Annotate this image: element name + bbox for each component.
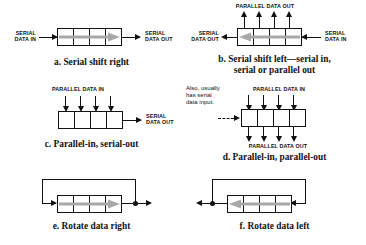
register-cell [58, 29, 74, 45]
register-cell [228, 196, 244, 212]
panel-c-output-arrowhead [136, 117, 142, 123]
panel-c-parallel-in-serial-out: PARALLEL DATA IN SERIAL DATA OUT c. Para… [0, 82, 183, 165]
panel-f-output-arrowhead [196, 200, 202, 206]
register-cell [254, 29, 270, 45]
panel-f-junction-dot [210, 201, 215, 206]
panel-f-feedback-top-horizontal [212, 179, 306, 180]
register-cell [59, 112, 75, 128]
panel-e-output-arrowhead [146, 200, 152, 206]
panel-d-caption: d. Parallel-in, parallel-out [183, 152, 366, 163]
panel-f-register [227, 195, 292, 213]
panel-c-top-label: PARALLEL DATA IN [28, 86, 128, 92]
panel-b-caption: b. Serial shift left—serial in, serial o… [183, 54, 366, 75]
panel-f-rotate-data-left: f. Rotate data left [183, 165, 366, 245]
register-cell [238, 29, 254, 45]
panel-f-feedback-right-vertical [305, 179, 306, 203]
panel-b-parallel-out-arrowhead [271, 11, 277, 17]
panel-b-output-arrowhead [221, 34, 227, 40]
register-cell [258, 110, 274, 126]
panel-e-feedback-left-vertical [42, 179, 43, 203]
panel-b-top-label: PARALLEL DATA OUT [215, 3, 315, 9]
register-cell [276, 196, 291, 212]
panel-d-parallel-in-parallel-out: Also, usually has serial data input. PAR… [183, 82, 366, 165]
panel-b-input-arrowhead [301, 34, 307, 40]
panel-c-caption: c. Parallel-in, serial-out [0, 139, 183, 150]
panel-c-output-label: SERIAL DATA OUT [146, 113, 184, 126]
panel-d-note-line3: data input. [186, 99, 246, 106]
panel-d-bottom-label: PARALLEL DATA OUT [226, 143, 330, 149]
register-cell [107, 112, 122, 128]
panel-b-output-label: SERIAL DATA OUT [183, 30, 219, 43]
register-cell [90, 29, 106, 45]
register-cell [260, 196, 276, 212]
panel-c-output-label-line2: DATA OUT [146, 119, 184, 125]
register-cell [74, 29, 90, 45]
panel-d-parallel-out-arrowhead [246, 136, 252, 142]
panel-a-output-label-line2: DATA OUT [145, 36, 183, 42]
panel-e-register [57, 195, 122, 213]
register-cell [274, 110, 290, 126]
panel-d-parallel-out-arrowhead [276, 136, 282, 142]
register-cell [290, 110, 305, 126]
panel-d-note-line2: has serial [186, 92, 246, 99]
register-cell [90, 196, 106, 212]
panel-b-caption-line2: serial or parallel out [183, 65, 366, 76]
panel-d-top-label: PARALLEL DATA IN [229, 86, 329, 92]
panel-b-parallel-out-arrowhead [241, 11, 247, 17]
panel-d-parallel-out-arrowhead [291, 136, 297, 142]
panel-d-serial-input-arrowhead [234, 115, 240, 121]
register-cell [270, 29, 286, 45]
panel-a-caption: a. Serial shift right [0, 57, 183, 68]
panel-a-input-label-line2: DATA IN [2, 36, 36, 42]
register-cell [106, 29, 121, 45]
panel-a-register [57, 28, 122, 46]
panel-b-serial-shift-left: PARALLEL DATA OUT SERIAL DATA OUT SERIAL [183, 0, 366, 82]
panel-b-parallel-out-arrowhead [256, 11, 262, 17]
panel-e-rotate-data-right: e. Rotate data right [0, 165, 183, 245]
register-cell [242, 110, 258, 126]
register-cell [75, 112, 91, 128]
panel-b-output-label-line2: DATA OUT [183, 36, 219, 42]
panel-a-output-arrowhead [135, 34, 141, 40]
register-cell [91, 112, 107, 128]
register-cell [244, 196, 260, 212]
panel-a-output-label: SERIAL DATA OUT [145, 30, 183, 43]
register-cell [286, 29, 301, 45]
panel-f-caption: f. Rotate data left [183, 221, 366, 232]
register-cell [74, 196, 90, 212]
register-cell [106, 196, 121, 212]
panel-d-parallel-out-arrowhead [261, 136, 267, 142]
shift-register-figure: SERIAL DATA IN SERIAL DATA OUT a. Serial… [0, 0, 366, 245]
panel-e-junction-dot [133, 201, 138, 206]
panel-b-register [237, 28, 302, 46]
register-cell [58, 196, 74, 212]
panel-d-serial-input-dashed-wire [218, 118, 234, 119]
panel-b-input-label-line2: DATA IN [325, 36, 365, 42]
panel-c-register [58, 111, 123, 129]
panel-e-caption: e. Rotate data right [0, 221, 183, 232]
panel-a-input-label: SERIAL DATA IN [2, 30, 36, 43]
panel-b-parallel-out-arrowhead [286, 11, 292, 17]
panel-d-register [241, 109, 306, 127]
panel-b-input-label: SERIAL DATA IN [325, 30, 365, 43]
panel-b-caption-line1: b. Serial shift left—serial in, [183, 54, 366, 65]
panel-e-feedback-top-horizontal [42, 179, 136, 180]
panel-a-serial-shift-right: SERIAL DATA IN SERIAL DATA OUT a. Serial… [0, 0, 183, 82]
